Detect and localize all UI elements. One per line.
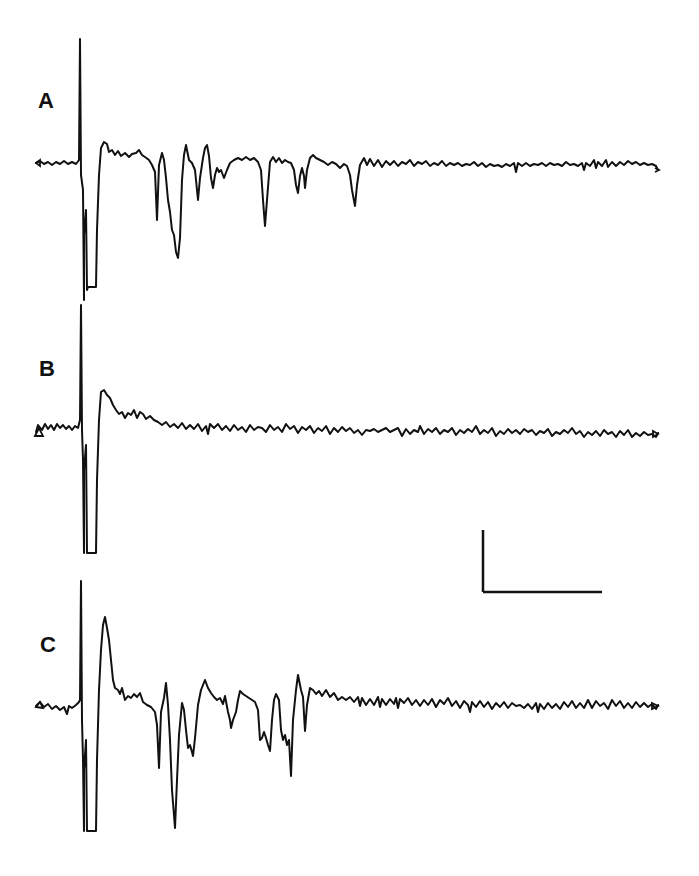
panel-label-b: B: [39, 358, 55, 380]
panel-label-a: A: [38, 90, 54, 112]
trace-b: [35, 305, 658, 553]
scale-bar: [483, 530, 602, 592]
trace-c: [36, 581, 658, 831]
trace-a: [36, 39, 659, 300]
trace-c-path: [36, 581, 658, 831]
figure: A B C: [0, 0, 699, 876]
trace-a-path: [36, 39, 658, 300]
trace-b-path: [36, 305, 658, 553]
traces-canvas: [0, 0, 699, 876]
panel-label-c: C: [40, 634, 56, 656]
